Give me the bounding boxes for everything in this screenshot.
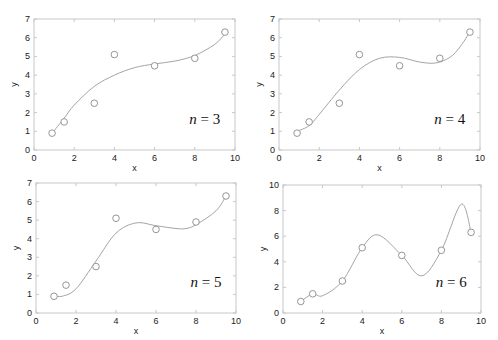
x-tick-label: 6 bbox=[399, 316, 404, 326]
y-tick-label: 5 bbox=[27, 215, 32, 225]
x-tick-label: 2 bbox=[320, 316, 325, 326]
x-tick-label: 8 bbox=[193, 316, 198, 326]
data-point bbox=[93, 263, 100, 270]
x-axis-label: x bbox=[380, 326, 385, 336]
data-point bbox=[399, 252, 406, 259]
y-tick-label: 1 bbox=[25, 126, 30, 136]
x-tick-label: 4 bbox=[112, 153, 117, 163]
data-point bbox=[294, 130, 301, 137]
y-tick-label: 6 bbox=[274, 231, 279, 241]
data-point bbox=[193, 219, 200, 226]
x-tick-label: 2 bbox=[72, 153, 77, 163]
y-tick-label: 0 bbox=[274, 308, 279, 318]
data-point bbox=[192, 55, 199, 62]
degree-annotation: n = 5 bbox=[191, 274, 222, 290]
x-tick-label: 2 bbox=[317, 153, 322, 163]
y-tick-label: 6 bbox=[27, 197, 32, 207]
y-axis-label: y bbox=[254, 82, 264, 87]
data-point bbox=[223, 193, 230, 200]
x-tick-label: 0 bbox=[276, 153, 281, 163]
data-point bbox=[438, 247, 445, 254]
y-tick-label: 1 bbox=[270, 126, 275, 136]
x-tick-label: 6 bbox=[152, 153, 157, 163]
y-axis-label: y bbox=[258, 246, 268, 251]
y-tick-label: 0 bbox=[27, 308, 32, 318]
data-point bbox=[356, 51, 363, 58]
y-tick-label: 2 bbox=[274, 282, 279, 292]
y-tick-label: 4 bbox=[27, 234, 32, 244]
data-point bbox=[91, 100, 98, 107]
y-tick-label: 4 bbox=[274, 257, 279, 267]
subplot-4: 02468100246810xyn = 6 bbox=[258, 180, 486, 336]
data-point bbox=[298, 298, 305, 305]
x-tick-label: 4 bbox=[357, 153, 362, 163]
y-tick-label: 2 bbox=[27, 271, 32, 281]
x-tick-label: 10 bbox=[231, 316, 241, 326]
degree-annotation: n = 6 bbox=[436, 274, 467, 290]
y-tick-label: 6 bbox=[25, 33, 30, 43]
y-tick-label: 7 bbox=[270, 14, 275, 24]
y-tick-label: 7 bbox=[25, 14, 30, 24]
y-tick-label: 4 bbox=[270, 70, 275, 80]
data-point bbox=[111, 51, 118, 58]
y-tick-label: 7 bbox=[27, 178, 32, 188]
data-point bbox=[113, 215, 120, 222]
data-point bbox=[309, 291, 316, 298]
x-tick-label: 8 bbox=[437, 153, 442, 163]
x-tick-label: 0 bbox=[33, 316, 38, 326]
subplot-3: 024681001234567xyn = 5 bbox=[11, 178, 241, 336]
y-tick-label: 3 bbox=[270, 89, 275, 99]
y-tick-label: 3 bbox=[27, 252, 32, 262]
y-tick-label: 0 bbox=[270, 145, 275, 155]
y-axis-label: y bbox=[11, 245, 21, 250]
data-point bbox=[222, 29, 229, 36]
figure: 024681001234567xyn = 3024681001234567xyn… bbox=[0, 0, 498, 340]
y-tick-label: 4 bbox=[25, 70, 30, 80]
data-point bbox=[359, 244, 366, 251]
y-tick-label: 3 bbox=[25, 89, 30, 99]
data-point bbox=[396, 62, 403, 69]
degree-annotation: n = 3 bbox=[189, 111, 220, 127]
y-tick-label: 5 bbox=[25, 51, 30, 61]
x-tick-label: 6 bbox=[397, 153, 402, 163]
y-tick-label: 5 bbox=[270, 51, 275, 61]
y-tick-label: 2 bbox=[270, 108, 275, 118]
data-point bbox=[336, 100, 343, 107]
subplot-2: 024681001234567xyn = 4 bbox=[254, 14, 485, 173]
x-tick-label: 10 bbox=[475, 153, 485, 163]
data-point bbox=[467, 29, 474, 36]
data-point bbox=[468, 229, 475, 236]
y-tick-label: 6 bbox=[270, 33, 275, 43]
degree-annotation: n = 4 bbox=[434, 111, 465, 127]
y-tick-label: 10 bbox=[269, 180, 279, 190]
x-tick-label: 8 bbox=[439, 316, 444, 326]
x-tick-label: 4 bbox=[113, 316, 118, 326]
x-tick-label: 10 bbox=[230, 153, 240, 163]
x-axis-label: x bbox=[134, 326, 139, 336]
axes-frame bbox=[34, 19, 235, 150]
data-point bbox=[153, 226, 160, 233]
x-tick-label: 0 bbox=[280, 316, 285, 326]
y-tick-label: 0 bbox=[25, 145, 30, 155]
y-tick-label: 1 bbox=[27, 289, 32, 299]
x-tick-label: 6 bbox=[153, 316, 158, 326]
data-point bbox=[63, 282, 70, 289]
x-tick-label: 8 bbox=[192, 153, 197, 163]
data-point bbox=[51, 293, 58, 300]
data-point bbox=[61, 119, 68, 126]
data-point bbox=[437, 55, 444, 62]
y-tick-label: 2 bbox=[25, 108, 30, 118]
axes-frame bbox=[36, 183, 236, 313]
x-tick-label: 10 bbox=[476, 316, 486, 326]
x-axis-label: x bbox=[377, 163, 382, 173]
data-point bbox=[151, 62, 158, 69]
x-axis-label: x bbox=[132, 163, 137, 173]
x-tick-label: 2 bbox=[73, 316, 78, 326]
x-tick-label: 0 bbox=[31, 153, 36, 163]
subplot-1: 024681001234567xyn = 3 bbox=[9, 14, 240, 173]
data-point bbox=[339, 278, 346, 285]
y-axis-label: y bbox=[9, 82, 19, 87]
data-point bbox=[306, 119, 313, 126]
data-point bbox=[49, 130, 56, 137]
x-tick-label: 4 bbox=[360, 316, 365, 326]
